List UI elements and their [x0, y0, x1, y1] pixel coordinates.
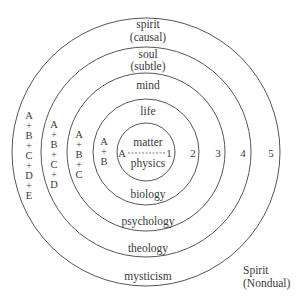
holarchy-diagram: spirit (causal) soul (subtle) mind life …: [0, 0, 299, 303]
stack-2: A + B: [100, 136, 108, 167]
level-number-1: 1: [166, 147, 172, 159]
label-matter: matter: [133, 136, 163, 148]
label-subtle: (subtle): [130, 60, 165, 73]
svg-text:A: A: [118, 148, 126, 159]
level-number-5: 5: [268, 147, 274, 159]
level-number-2: 2: [190, 147, 196, 159]
svg-text:D: D: [50, 179, 58, 190]
label-psychology: psychology: [121, 215, 174, 228]
svg-text:C: C: [75, 169, 82, 180]
level-number-3: 3: [215, 147, 221, 159]
label-theology: theology: [128, 242, 168, 255]
stack-3: A + B + C: [75, 129, 83, 180]
stack-5: A + B + C + D + E: [25, 110, 33, 201]
label-biology: biology: [130, 188, 165, 201]
label-spirit: spirit: [136, 18, 160, 31]
label-mind: mind: [136, 79, 160, 91]
svg-text:B: B: [100, 156, 107, 167]
label-causal: (causal): [130, 31, 167, 44]
svg-text:E: E: [26, 190, 32, 201]
stack-4: A + B + C + D: [50, 119, 58, 190]
label-soul: soul: [138, 48, 157, 60]
stack-1: A: [118, 148, 126, 159]
label-nondual: (Nondual): [243, 277, 290, 290]
ring-mind: [67, 73, 225, 231]
label-life: life: [140, 105, 155, 117]
level-number-4: 4: [240, 147, 246, 159]
label-physics: physics: [131, 157, 166, 170]
label-mysticism: mysticism: [124, 270, 171, 283]
label-nondual-spirit: Spirit: [243, 264, 269, 277]
